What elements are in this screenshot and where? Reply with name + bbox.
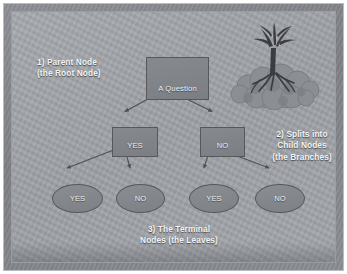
node-child-yes[interactable]: YES (112, 127, 158, 157)
caption-parent-node: 1) Parent Node (the Root Node) (37, 57, 145, 80)
node-root-question[interactable]: A Question (146, 57, 209, 100)
node-root-label: A Question (158, 84, 197, 93)
node-leaf-3-label: YES (206, 194, 222, 203)
node-leaf-3[interactable]: YES (189, 184, 239, 213)
node-leaf-4[interactable]: NO (255, 184, 305, 213)
uprooted-tree-icon (226, 18, 326, 110)
slide-canvas: A Question YES NO YES NO YES NO 1) Paren… (0, 0, 347, 274)
node-child-yes-label: YES (127, 141, 143, 150)
node-leaf-4-label: NO (274, 194, 286, 203)
node-child-no[interactable]: NO (200, 127, 245, 157)
node-leaf-2-label: NO (135, 194, 147, 203)
slide-panel: A Question YES NO YES NO YES NO 1) Paren… (11, 11, 336, 263)
node-leaf-1[interactable]: YES (52, 184, 103, 213)
caption-terminal-nodes: 3) The Terminal Nodes (the Leaves) (104, 224, 254, 247)
node-leaf-2[interactable]: NO (116, 184, 165, 213)
node-child-no-label: NO (217, 141, 229, 150)
node-leaf-1-label: YES (70, 194, 86, 203)
caption-splits-child-nodes: 2) Splits into Child Nodes (the Branches… (252, 129, 336, 163)
